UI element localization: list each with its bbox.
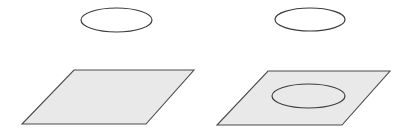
panel-circle-above-plane [22, 8, 194, 124]
left-floating-circle-icon [81, 8, 152, 32]
geometry-figure-svg [0, 0, 414, 137]
panel-circle-on-plane [217, 8, 390, 125]
geometry-figure-canvas [0, 0, 414, 137]
right-plane-parallelogram [217, 71, 390, 125]
right-floating-circle-icon [275, 8, 345, 31]
left-plane-parallelogram [22, 70, 194, 124]
